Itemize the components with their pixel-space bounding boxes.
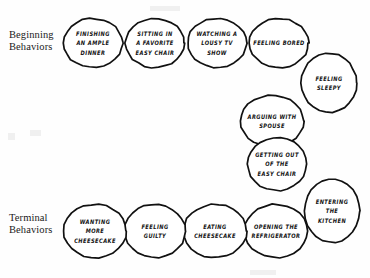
scan-artifact	[150, 6, 180, 11]
behavior-chain-diagram: Beginning Behaviors Terminal Behaviors F…	[0, 0, 370, 278]
behavior-node-watching-a-lousy-tv-show: Watching a lousy TV show	[186, 17, 248, 69]
behavior-node-label: Opening the refrigerator	[243, 221, 309, 240]
beginning-behaviors-label: Beginning Behaviors	[9, 29, 54, 52]
behavior-node-label: Feeling guilty	[123, 221, 187, 240]
behavior-node-label: Arguing with spouse	[239, 111, 305, 130]
behavior-node-label: Wanting more cheesecake	[62, 216, 128, 245]
behavior-node-opening-the-refrigerator: Opening the refrigerator	[243, 203, 309, 259]
behavior-node-sitting-in-a-favorite-easy-chair: Sitting in a favorite easy chair	[124, 17, 186, 69]
behavior-node-label: Entering the kitchen	[303, 196, 361, 225]
scan-artifact	[8, 133, 15, 140]
behavior-node-label: Watching a lousy TV show	[186, 28, 248, 57]
behavior-node-finishing-an-ample-dinner: Finishing an ample dinner	[62, 17, 124, 69]
behavior-node-feeling-sleepy: Feeling sleepy	[300, 52, 358, 114]
behavior-node-label: Finishing an ample dinner	[62, 28, 124, 57]
terminal-behaviors-label: Terminal Behaviors	[9, 212, 52, 235]
behavior-node-label: Feeling bored	[248, 38, 310, 48]
behavior-node-label: Eating cheesecake	[182, 221, 248, 240]
behavior-node-eating-cheesecake: Eating cheesecake	[182, 203, 248, 259]
behavior-node-feeling-guilty: Feeling guilty	[123, 203, 187, 259]
behavior-node-entering-the-kitchen: Entering the kitchen	[303, 178, 361, 244]
behavior-node-label: Sitting in a favorite easy chair	[124, 28, 186, 57]
behavior-node-getting-out-of-the-easy-chair: Getting out of the easy chair	[246, 136, 308, 192]
scan-artifact	[250, 270, 276, 275]
behavior-node-label: Getting out of the easy chair	[246, 149, 308, 178]
behavior-node-label: Feeling sleepy	[300, 73, 358, 92]
behavior-node-wanting-more-cheesecake: Wanting more cheesecake	[62, 203, 128, 259]
scan-artifact	[30, 130, 41, 136]
